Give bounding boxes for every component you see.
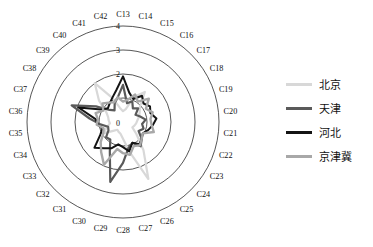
category-label-C14: C14 — [139, 12, 153, 21]
legend-label: 北京 — [319, 76, 341, 92]
legend-item-京津冀[interactable]: 京津冀 — [286, 144, 372, 168]
category-label-C34: C34 — [13, 151, 27, 160]
grid-ring — [27, 26, 219, 218]
category-label-C33: C33 — [23, 172, 37, 181]
legend-label: 河北 — [319, 124, 341, 140]
radial-tick-label: 0 — [116, 119, 120, 128]
legend-color-swatch — [286, 107, 312, 110]
category-label-C19: C19 — [219, 85, 233, 94]
category-label-C20: C20 — [224, 107, 238, 116]
chart-legend: 北京天津河北京津冀 — [286, 72, 372, 168]
legend-label: 天津 — [319, 100, 341, 116]
category-label-C29: C29 — [94, 224, 108, 233]
series-line-河北 — [78, 76, 156, 151]
legend-color-swatch — [286, 131, 312, 134]
legend-color-swatch — [286, 155, 312, 158]
category-label-C42: C42 — [94, 12, 108, 21]
legend-color-swatch — [286, 83, 312, 86]
category-label-C13: C13 — [116, 10, 130, 19]
legend-item-河北[interactable]: 河北 — [286, 120, 372, 144]
legend-item-北京[interactable]: 北京 — [286, 72, 372, 96]
category-label-C39: C39 — [36, 46, 50, 55]
radar-chart-figure: 0234 C13C14C15C16C17C18C19C20C21C22C23C2… — [0, 0, 373, 247]
category-label-C30: C30 — [72, 217, 86, 226]
category-label-C31: C31 — [53, 205, 67, 214]
radar-radial-tick-labels: 0234 — [116, 22, 120, 128]
category-label-C25: C25 — [180, 205, 194, 214]
category-label-C28: C28 — [116, 226, 130, 235]
category-label-C22: C22 — [219, 151, 233, 160]
category-label-C36: C36 — [9, 107, 23, 116]
radar-series-group — [72, 76, 157, 181]
category-label-C23: C23 — [210, 172, 224, 181]
grid-ring — [51, 50, 195, 194]
category-label-C18: C18 — [210, 64, 224, 73]
radial-tick-label: 3 — [116, 46, 120, 55]
category-label-C32: C32 — [36, 190, 50, 199]
radial-tick-label: 2 — [116, 70, 120, 79]
radar-grid-rings — [27, 26, 219, 218]
category-label-C41: C41 — [72, 19, 86, 28]
legend-label: 京津冀 — [319, 148, 353, 164]
category-label-C21: C21 — [224, 129, 238, 138]
category-label-C15: C15 — [160, 19, 174, 28]
legend-item-天津[interactable]: 天津 — [286, 96, 372, 120]
category-label-C38: C38 — [23, 64, 37, 73]
category-label-C40: C40 — [53, 31, 67, 40]
category-label-C37: C37 — [13, 85, 27, 94]
radial-tick-label: 4 — [116, 22, 120, 31]
category-label-C27: C27 — [139, 224, 153, 233]
category-label-C16: C16 — [180, 31, 194, 40]
category-label-C26: C26 — [160, 217, 174, 226]
category-label-C17: C17 — [196, 46, 210, 55]
category-label-C35: C35 — [9, 129, 23, 138]
radar-category-labels: C13C14C15C16C17C18C19C20C21C22C23C24C25C… — [9, 10, 237, 235]
category-label-C24: C24 — [196, 190, 210, 199]
